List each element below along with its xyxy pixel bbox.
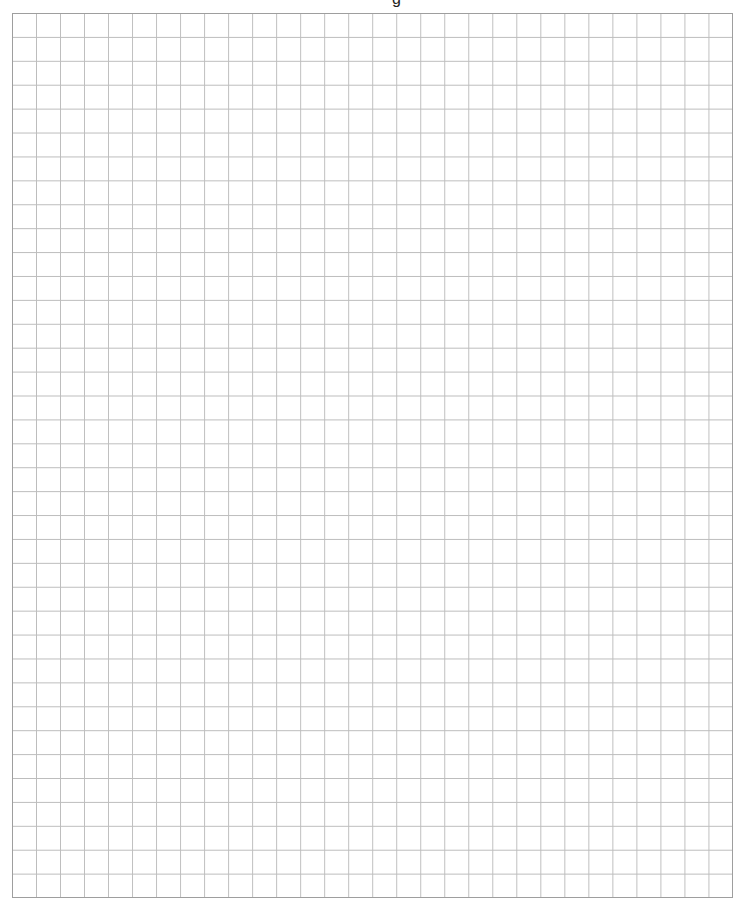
graph-paper-grid [12,13,733,898]
cut-off-heading-text: g [392,0,401,7]
